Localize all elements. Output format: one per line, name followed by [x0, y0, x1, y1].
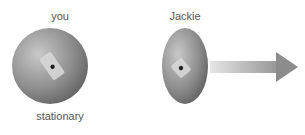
diagram-canvas [0, 0, 305, 135]
sphere-jackie [162, 28, 208, 104]
velocity-arrow-icon [210, 52, 298, 82]
sphere-you [12, 28, 88, 104]
